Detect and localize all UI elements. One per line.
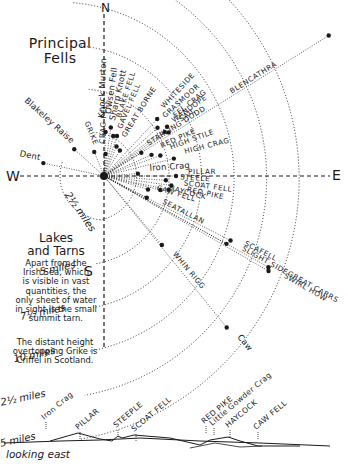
fell-summit-dot [158, 153, 162, 157]
fell-summit-dot [155, 126, 159, 130]
diagram-title: Principal Fells [20, 36, 100, 66]
panorama-ground-line [4, 438, 330, 446]
fell-summit-dot [41, 161, 45, 165]
fell-summit-dot [228, 238, 232, 242]
fell-label: Iron Crag [149, 160, 190, 173]
sight-line [43, 163, 104, 176]
fell-summit-dot [92, 150, 96, 154]
fell-label: BLENCATHRA [228, 59, 278, 95]
fell-summit-dot [327, 33, 331, 37]
sight-line [104, 155, 152, 176]
lakes-body-line: summit tarn. [10, 314, 102, 323]
fell-summit-dot [174, 174, 178, 178]
sight-line [104, 153, 141, 176]
compass-east-label: E [332, 167, 341, 183]
fell-label: Blakeley Raise [23, 95, 77, 145]
fell-summit-dot [109, 125, 113, 129]
diagram-stage: 2½ miles5 miles7½ miles10 miles12½ miles… [0, 0, 348, 464]
fell-summit-dot [225, 325, 229, 329]
compass-west-label: W [6, 168, 20, 184]
fell-summit-dot [149, 153, 153, 157]
fell-summit-dot [266, 269, 270, 273]
fell-summit-dot [155, 117, 159, 121]
fell-summit-dot [118, 148, 122, 152]
fell-summit-dot [72, 147, 76, 151]
lakes-body: Apart from the Irish Sea, which is visib… [10, 259, 102, 323]
sight-line [104, 176, 148, 189]
title-line-2: Fells [20, 51, 100, 66]
panorama-label: SCOAT FELL [130, 395, 174, 434]
fell-summit-dot [103, 152, 107, 156]
sight-line [74, 149, 104, 176]
fell-summit-dot [136, 171, 140, 175]
fell-summit-dot [115, 134, 119, 138]
fell-label: WHIN RIGG [171, 250, 207, 291]
panorama-ridge-line [50, 433, 300, 446]
sight-line [104, 176, 166, 180]
panorama-caption: looking east [6, 448, 70, 460]
fell-label: Dent [19, 148, 42, 162]
criffel-note: The distant height overtopping Grike is … [6, 338, 104, 366]
note-line: Criffel in Scotland. [6, 356, 104, 365]
fell-summit-dot [160, 243, 164, 247]
lakes-heading-2: and Tarns [10, 245, 102, 258]
fell-label: Caw [236, 332, 255, 353]
fell-summit-dot [114, 144, 118, 148]
fell-summit-dot [111, 134, 115, 138]
fell-summit-dot [266, 265, 270, 269]
lakes-and-tarns-note: Lakes and Tarns Apart from the Irish Sea… [10, 232, 102, 323]
title-line-1: Principal [20, 36, 100, 51]
fell-summit-dot [146, 187, 150, 191]
panorama-label: PILLAR [74, 406, 102, 431]
fell-summit-dot [164, 178, 168, 182]
compass-north-label: N [101, 1, 110, 15]
ring-label: 2½ miles [63, 190, 98, 234]
ring-label: 12½ miles [0, 388, 46, 410]
